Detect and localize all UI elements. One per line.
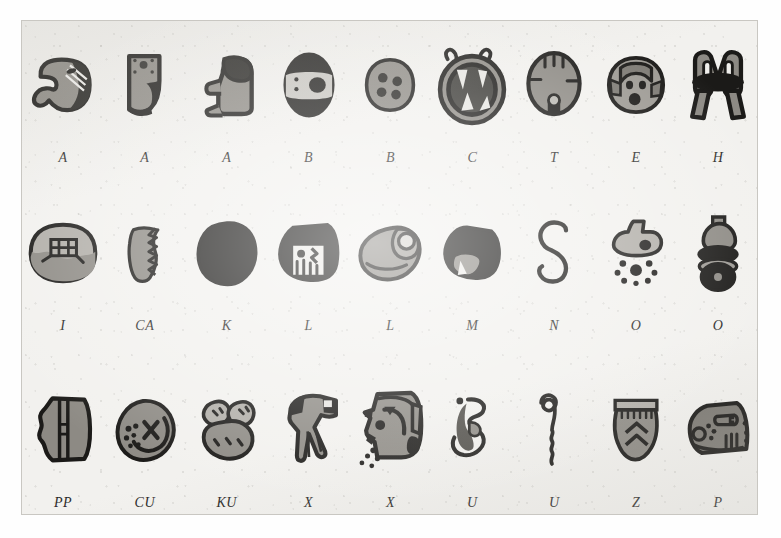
glyph-four-dot-oval-icon	[353, 31, 427, 139]
glyph-label: I	[60, 319, 65, 333]
glyph-cell[interactable]: U	[517, 376, 591, 510]
glyph-cell[interactable]: A	[26, 31, 100, 165]
glyph-label: B	[304, 151, 313, 165]
glyph-label: O	[631, 319, 642, 333]
glyph-row: I CA K	[22, 199, 758, 333]
glyph-label: Z	[632, 496, 640, 510]
glyph-cell[interactable]: CA	[108, 199, 182, 333]
glyph-framed-panel-icon	[272, 199, 346, 307]
glyph-cell[interactable]: KU	[190, 376, 264, 510]
glyph-label: N	[549, 319, 559, 333]
glyph-cell[interactable]: O	[681, 199, 755, 333]
glyph-solid-blob-icon	[190, 199, 264, 307]
glyph-three-lobes-icon	[190, 376, 264, 484]
glyph-cell[interactable]: M	[435, 199, 509, 333]
glyph-reptile-head-icon	[681, 376, 755, 484]
glyph-label: CU	[135, 496, 155, 510]
glyph-striped-oval-icon	[517, 31, 591, 139]
glyph-label: A	[58, 151, 67, 165]
glyph-label: PP	[54, 496, 72, 510]
glyph-split-shield-icon	[26, 376, 100, 484]
glyph-s-curl-icon	[517, 199, 591, 307]
glyph-shell-spiral-icon	[353, 199, 427, 307]
glyph-three-dot-face-icon	[599, 31, 673, 139]
glyph-bound-bundle-icon	[681, 31, 755, 139]
glyph-label: B	[386, 151, 395, 165]
glyph-stacked-rings-icon	[681, 199, 755, 307]
glyph-fanged-ring-icon	[435, 31, 509, 139]
glyph-cell[interactable]: Z	[599, 376, 673, 510]
glyph-profile-head-icon	[353, 376, 427, 484]
glyph-cell[interactable]: PP	[26, 376, 100, 510]
glyph-open-hand-icon	[272, 376, 346, 484]
glyph-cell[interactable]: O	[599, 199, 673, 333]
glyph-cell[interactable]: CU	[108, 376, 182, 510]
glyph-label: E	[632, 151, 641, 165]
glyph-label: M	[466, 319, 478, 333]
glyph-label: T	[550, 151, 558, 165]
glyph-plate: A A	[21, 20, 758, 515]
glyph-cell[interactable]: A	[108, 31, 182, 165]
glyph-cell[interactable]: U	[435, 376, 509, 510]
glyph-cell[interactable]: E	[599, 31, 673, 165]
glyph-label: X	[304, 496, 313, 510]
glyph-label: C	[467, 151, 477, 165]
glyph-cell[interactable]: I	[26, 199, 100, 333]
glyph-coiled-wave-icon	[517, 376, 591, 484]
glyph-label: H	[713, 151, 724, 165]
glyph-banded-oval-icon	[272, 31, 346, 139]
glyph-chevron-vessel-icon	[599, 376, 673, 484]
glyph-label: O	[713, 319, 724, 333]
glyph-boot-dotted-icon	[108, 31, 182, 139]
glyph-cell[interactable]: K	[190, 199, 264, 333]
glyph-hooked-loop-icon	[435, 376, 509, 484]
glyph-label: U	[549, 496, 560, 510]
glyph-hooked-head-icon	[26, 31, 100, 139]
glyph-cell[interactable]: B	[272, 31, 346, 165]
glyph-latticed-oval-icon	[26, 199, 100, 307]
glyph-label: A	[140, 151, 149, 165]
plate-page: A A	[0, 0, 781, 538]
glyph-cell[interactable]: X	[272, 376, 346, 510]
glyph-label: X	[386, 496, 395, 510]
glyph-label: A	[222, 151, 231, 165]
glyph-label: L	[386, 319, 394, 333]
glyph-row: A A	[22, 31, 758, 165]
glyph-cell[interactable]: H	[681, 31, 755, 165]
glyph-label: K	[222, 319, 232, 333]
glyph-cell[interactable]: N	[517, 199, 591, 333]
glyph-cell[interactable]: L	[272, 199, 346, 333]
glyph-row: PP CU	[22, 376, 758, 510]
glyph-dotted-burst-icon	[599, 199, 673, 307]
glyph-seated-figure-icon	[190, 31, 264, 139]
glyph-label: KU	[216, 496, 236, 510]
glyph-cell[interactable]: X	[353, 376, 427, 510]
glyph-serrated-crescent-icon	[108, 199, 182, 307]
glyph-label: L	[304, 319, 312, 333]
glyph-cell[interactable]: L	[353, 199, 427, 333]
glyph-cell[interactable]: A	[190, 31, 264, 165]
glyph-label: CA	[135, 319, 154, 333]
glyph-cell[interactable]: P	[681, 376, 755, 510]
glyph-cell[interactable]: T	[517, 31, 591, 165]
glyph-label: P	[713, 496, 722, 510]
glyph-crossed-disc-icon	[108, 376, 182, 484]
glyph-label: U	[467, 496, 478, 510]
glyph-cell[interactable]: B	[353, 31, 427, 165]
glyph-clawed-wedge-icon	[435, 199, 509, 307]
glyph-cell[interactable]: C	[435, 31, 509, 165]
